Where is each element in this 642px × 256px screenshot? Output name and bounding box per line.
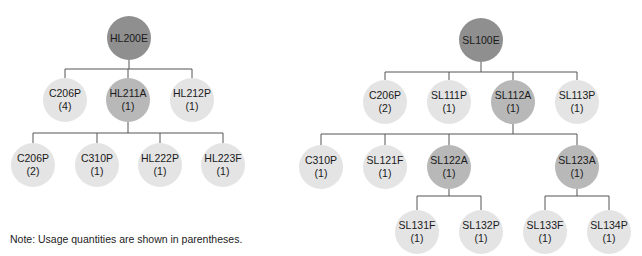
- node-label: SL133F: [527, 219, 564, 232]
- node-label: C310P: [81, 152, 113, 165]
- node-c206p: C206P(2): [11, 143, 55, 187]
- node-hl200e: HL200E: [107, 16, 151, 60]
- node-label: SL131F: [399, 219, 436, 232]
- node-quantity: (2): [27, 165, 40, 178]
- node-label: C310P: [305, 154, 337, 167]
- node-quantity: (1): [122, 100, 135, 113]
- node-quantity: (1): [603, 232, 616, 245]
- node-label: SL132P: [462, 219, 499, 232]
- node-c310p: C310P(1): [299, 145, 343, 189]
- node-quantity: (1): [571, 167, 584, 180]
- node-label: SL100E: [462, 34, 499, 47]
- node-label: HL200E: [110, 32, 148, 45]
- node-quantity: (1): [571, 102, 584, 115]
- node-label: HL223F: [204, 152, 241, 165]
- node-label: SL111P: [431, 89, 467, 102]
- node-quantity: (2): [379, 102, 392, 115]
- node-label: HL222P: [141, 152, 179, 165]
- node-sl113p: SL113P(1): [555, 80, 599, 124]
- node-quantity: (1): [379, 167, 392, 180]
- node-c206p: C206P(4): [43, 78, 87, 122]
- node-sl100e: SL100E: [459, 18, 503, 62]
- node-sl111p: SL111P(1): [427, 80, 471, 124]
- node-sl122a: SL122A(1): [427, 145, 471, 189]
- node-quantity: (1): [186, 100, 199, 113]
- node-label: SL123A: [558, 154, 595, 167]
- node-quantity: (1): [411, 232, 424, 245]
- node-label: SL113P: [559, 89, 596, 102]
- node-label: SL112A: [495, 89, 532, 102]
- node-quantity: (1): [539, 232, 552, 245]
- node-quantity: (1): [217, 165, 230, 178]
- node-c206p: C206P(2): [363, 80, 407, 124]
- node-hl222p: HL222P(1): [138, 143, 182, 187]
- node-label: HL212P: [173, 87, 211, 100]
- node-quantity: (1): [315, 167, 328, 180]
- node-quantity: (1): [443, 167, 456, 180]
- node-sl132p: SL132P(1): [459, 210, 503, 254]
- node-label: C206P: [17, 152, 49, 165]
- node-label: SL121F: [367, 154, 404, 167]
- node-label: SL122A: [430, 154, 467, 167]
- node-label: HL211A: [109, 87, 146, 100]
- node-c310p: C310P(1): [75, 143, 119, 187]
- node-quantity: (1): [475, 232, 488, 245]
- node-quantity: (1): [443, 102, 456, 115]
- node-hl211a: HL211A(1): [106, 78, 150, 122]
- node-sl134p: SL134P(1): [587, 210, 631, 254]
- node-quantity: (4): [59, 100, 72, 113]
- node-sl133f: SL133F(1): [523, 210, 567, 254]
- node-sl121f: SL121F(1): [363, 145, 407, 189]
- node-sl131f: SL131F(1): [395, 210, 439, 254]
- node-sl123a: SL123A(1): [555, 145, 599, 189]
- node-hl212p: HL212P(1): [170, 78, 214, 122]
- node-hl223f: HL223F(1): [201, 143, 245, 187]
- node-sl112a: SL112A(1): [491, 80, 535, 124]
- node-label: C206P: [49, 87, 81, 100]
- node-label: C206P: [369, 89, 401, 102]
- node-quantity: (1): [154, 165, 167, 178]
- usage-note: Note: Usage quantities are shown in pare…: [10, 233, 242, 245]
- node-quantity: (1): [91, 165, 104, 178]
- node-quantity: (1): [507, 102, 520, 115]
- node-label: SL134P: [590, 219, 627, 232]
